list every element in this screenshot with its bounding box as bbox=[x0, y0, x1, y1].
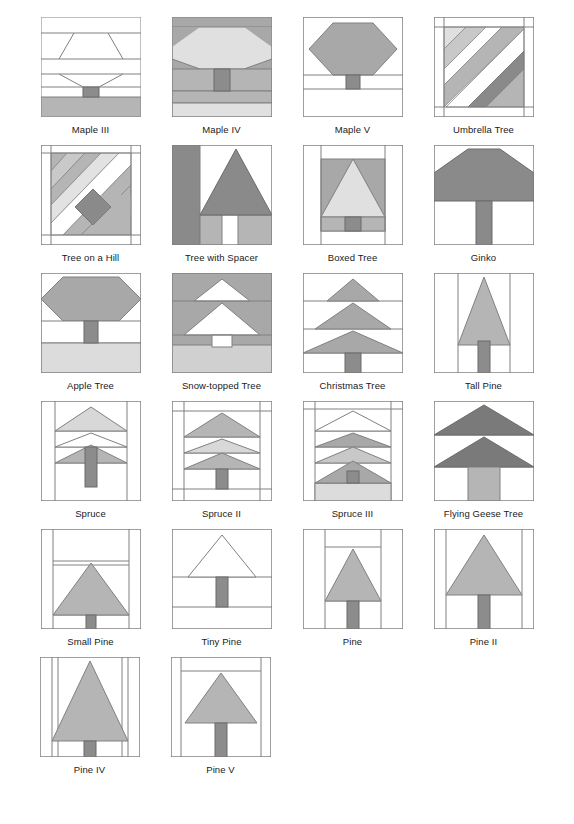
block-label: Christmas Tree bbox=[320, 380, 386, 391]
maple-4-diagram bbox=[169, 14, 275, 120]
umbrella-tree-diagram bbox=[431, 14, 537, 120]
pine-5-diagram bbox=[168, 654, 274, 760]
block-row: Spruce bbox=[0, 398, 574, 519]
block-cell-pine[interactable]: Pine bbox=[287, 526, 418, 647]
block-cell-tree-on-a-hill[interactable]: Tree on a Hill bbox=[25, 142, 156, 263]
block-label: Spruce II bbox=[202, 508, 241, 519]
quilt-block-sheet: Maple III bbox=[0, 0, 574, 824]
block-label: Spruce bbox=[75, 508, 106, 519]
block-label: Small Pine bbox=[67, 636, 113, 647]
tiny-pine-diagram bbox=[169, 526, 275, 632]
block-row: Small Pine Tiny Pine bbox=[0, 526, 574, 647]
block-cell-small-pine[interactable]: Small Pine bbox=[25, 526, 156, 647]
block-cell-pine-4[interactable]: Pine IV bbox=[24, 654, 155, 775]
pine-4-diagram bbox=[37, 654, 143, 760]
spruce-3-diagram bbox=[300, 398, 406, 504]
apple-tree-diagram bbox=[38, 270, 144, 376]
block-label: Tree with Spacer bbox=[185, 252, 258, 263]
block-row: Pine IV Pine V bbox=[0, 654, 574, 775]
block-label: Boxed Tree bbox=[328, 252, 378, 263]
maple-5-diagram bbox=[300, 14, 406, 120]
block-label: Pine bbox=[343, 636, 362, 647]
block-cell-snow-topped-tree[interactable]: Snow-topped Tree bbox=[156, 270, 287, 391]
maple-3-diagram bbox=[38, 14, 144, 120]
pine-diagram bbox=[300, 526, 406, 632]
block-label: Ginko bbox=[471, 252, 496, 263]
boxed-tree-diagram bbox=[300, 142, 406, 248]
block-label: Flying Geese Tree bbox=[444, 508, 523, 519]
pine-2-diagram bbox=[431, 526, 537, 632]
block-label: Tall Pine bbox=[465, 380, 502, 391]
block-cell-apple-tree[interactable]: Apple Tree bbox=[25, 270, 156, 391]
small-pine-diagram bbox=[38, 526, 144, 632]
block-cell-umbrella-tree[interactable]: Umbrella Tree bbox=[418, 14, 549, 135]
block-cell-tiny-pine[interactable]: Tiny Pine bbox=[156, 526, 287, 647]
block-cell-ginko[interactable]: Ginko bbox=[418, 142, 549, 263]
block-cell-maple-5[interactable]: Maple V bbox=[287, 14, 418, 135]
block-label: Snow-topped Tree bbox=[182, 380, 261, 391]
block-label: Pine II bbox=[470, 636, 498, 647]
snow-topped-tree-diagram bbox=[169, 270, 275, 376]
flying-geese-tree-diagram bbox=[431, 398, 537, 504]
block-cell-pine-2[interactable]: Pine II bbox=[418, 526, 549, 647]
spruce-diagram bbox=[38, 398, 144, 504]
block-label: Spruce III bbox=[332, 508, 374, 519]
block-label: Pine V bbox=[206, 764, 235, 775]
block-label: Umbrella Tree bbox=[453, 124, 514, 135]
block-label: Pine IV bbox=[74, 764, 105, 775]
block-label: Maple IV bbox=[202, 124, 240, 135]
christmas-tree-diagram bbox=[300, 270, 406, 376]
block-cell-christmas-tree[interactable]: Christmas Tree bbox=[287, 270, 418, 391]
ginko-diagram bbox=[431, 142, 537, 248]
tree-with-spacer-diagram bbox=[169, 142, 275, 248]
block-label: Maple III bbox=[72, 124, 109, 135]
block-cell-spruce-3[interactable]: Spruce III bbox=[287, 398, 418, 519]
block-cell-boxed-tree[interactable]: Boxed Tree bbox=[287, 142, 418, 263]
block-label: Apple Tree bbox=[67, 380, 114, 391]
spruce-2-diagram bbox=[169, 398, 275, 504]
block-label: Tree on a Hill bbox=[62, 252, 120, 263]
block-cell-maple-4[interactable]: Maple IV bbox=[156, 14, 287, 135]
block-label: Maple V bbox=[335, 124, 371, 135]
block-cell-spruce-2[interactable]: Spruce II bbox=[156, 398, 287, 519]
block-label: Tiny Pine bbox=[201, 636, 241, 647]
block-row: Tree on a Hill Tree with Spacer bbox=[0, 142, 574, 263]
block-cell-spruce[interactable]: Spruce bbox=[25, 398, 156, 519]
block-cell-tall-pine[interactable]: Tall Pine bbox=[418, 270, 549, 391]
block-cell-flying-geese-tree[interactable]: Flying Geese Tree bbox=[418, 398, 549, 519]
block-row: Apple Tree Snow-topped Tree bbox=[0, 270, 574, 391]
block-cell-tree-with-spacer[interactable]: Tree with Spacer bbox=[156, 142, 287, 263]
block-row: Maple III bbox=[0, 14, 574, 135]
tall-pine-diagram bbox=[431, 270, 537, 376]
block-grid: Maple III bbox=[0, 14, 574, 782]
block-cell-maple-3[interactable]: Maple III bbox=[25, 14, 156, 135]
block-cell-pine-5[interactable]: Pine V bbox=[155, 654, 286, 775]
tree-on-a-hill-diagram bbox=[38, 142, 144, 248]
